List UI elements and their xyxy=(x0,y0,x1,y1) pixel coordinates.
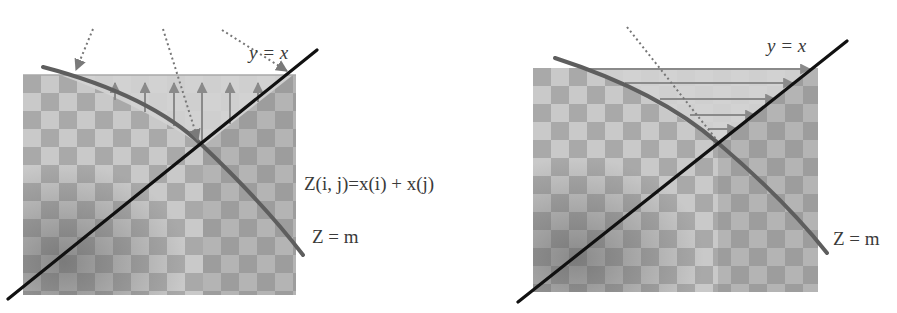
label-sum-formula: Z(i, j)=x(i) + x(j) xyxy=(304,173,434,195)
right-panel: y = x Z = m xyxy=(518,27,880,302)
left-panel: y = x Z(i, j)=x(i) + x(j) Z = m xyxy=(8,29,434,299)
label-y-equals-x-left: y = x xyxy=(247,42,289,63)
diagram-canvas: y = x Z(i, j)=x(i) + x(j) Z = m y = x Z … xyxy=(0,0,897,313)
label-y-equals-x-right: y = x xyxy=(765,35,807,56)
label-z-equals-m-right: Z = m xyxy=(833,228,880,249)
label-z-equals-m-left: Z = m xyxy=(312,226,359,247)
